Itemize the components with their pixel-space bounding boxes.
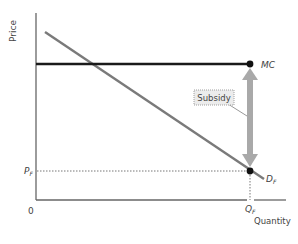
subsidy-diagram: Price 0 Subsidy MC DF PF QF Quantity [0, 0, 298, 244]
quantity-level-label: QF [245, 204, 256, 215]
subsidy-arrow [242, 68, 258, 167]
mc-label: MC [261, 60, 276, 70]
subsidy-label: Subsidy [197, 93, 230, 103]
origin-label: 0 [28, 206, 34, 216]
x-axis-label: Quantity [254, 216, 291, 226]
subsidy-leader-line [228, 104, 247, 116]
demand-label: DF [266, 174, 277, 185]
equilibrium-point [247, 168, 254, 175]
y-axis-label: Price [8, 20, 18, 42]
mc-point [247, 61, 254, 68]
price-level-label: PF [24, 166, 33, 177]
